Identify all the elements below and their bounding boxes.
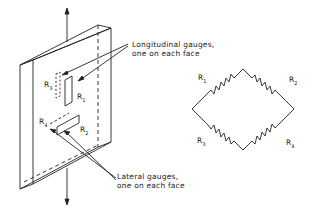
label-sub: 4 — [44, 122, 47, 128]
label-sub: 1 — [203, 78, 206, 84]
wheatstone-bridge — [192, 69, 294, 150]
gauge-label-r4: R4 — [39, 117, 47, 128]
lateral-label-line2: one on each face — [117, 181, 185, 190]
bridge-label-r3: R3 — [197, 136, 205, 147]
specimen-front-face — [20, 60, 33, 189]
label-sub: 2 — [85, 130, 88, 136]
lateral-label: Lateral gauges, one on each face — [117, 172, 185, 190]
gauge-label-r1: R1 — [77, 92, 85, 103]
gauge-r1 — [65, 76, 72, 106]
specimen-top-face — [20, 25, 111, 65]
bridge-label-r2: R2 — [289, 75, 297, 86]
longitudinal-label: Longitudinal gauges, one on each face — [132, 40, 214, 58]
bridge-label-r1: R1 — [198, 73, 206, 84]
gauge-label-r3: R3 — [44, 80, 52, 91]
label-sub: 4 — [291, 143, 294, 149]
label-sub: 3 — [49, 85, 52, 91]
lateral-label-line1: Lateral gauges, — [117, 172, 185, 181]
label-sub: 1 — [82, 97, 85, 103]
label-sub: 2 — [294, 80, 297, 86]
label-sub: 3 — [202, 141, 205, 147]
longitudinal-label-line1: Longitudinal gauges, — [132, 40, 214, 49]
longitudinal-label-line2: one on each face — [132, 49, 214, 58]
gauge-label-r2: R2 — [80, 125, 88, 136]
bridge-label-r4: R4 — [286, 138, 294, 149]
